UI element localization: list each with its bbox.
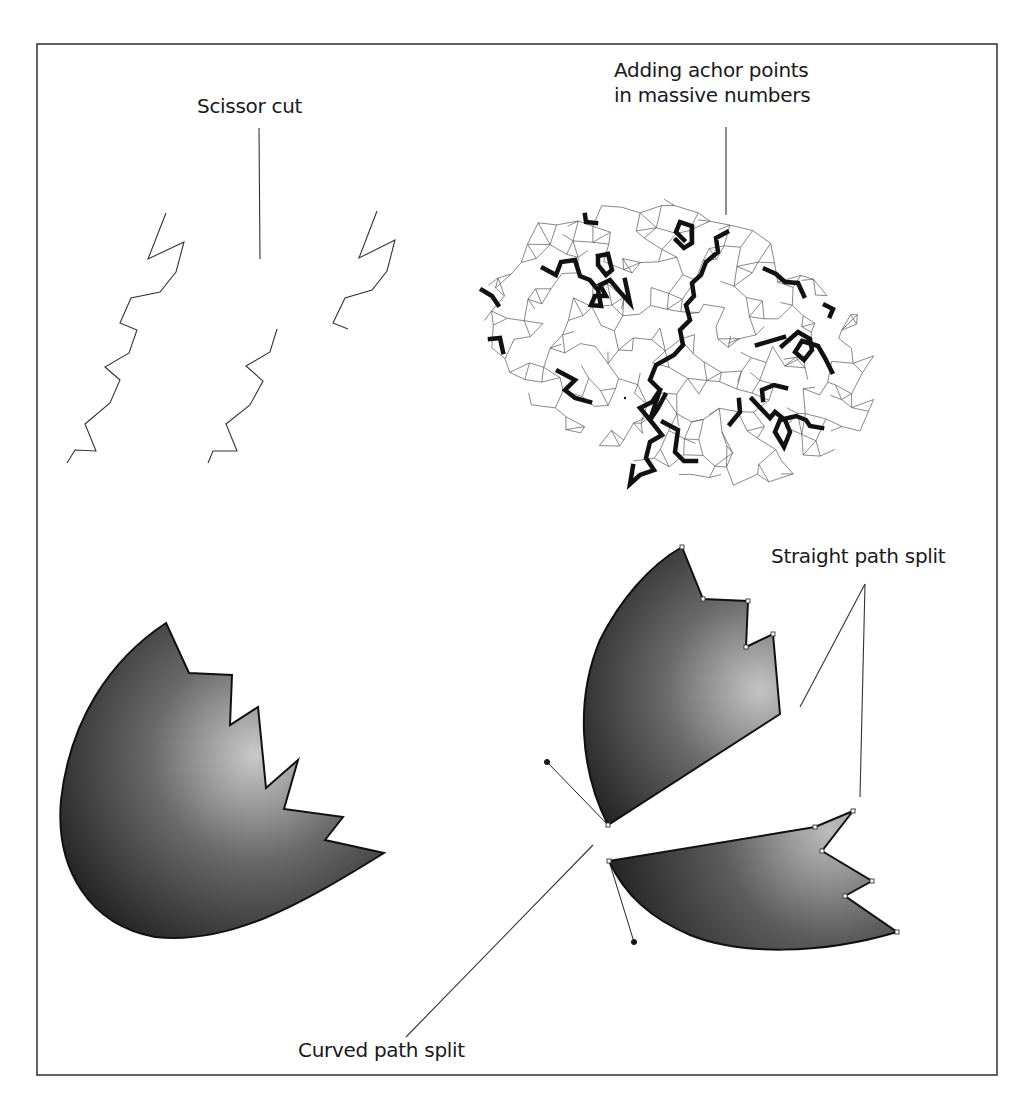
- handle-point-lower: [631, 939, 636, 944]
- upper-split-piece: [584, 547, 780, 825]
- anchor-label-line-1: Adding achor points: [614, 58, 810, 83]
- straight-split-leaders: [800, 584, 865, 797]
- scissor-leader-line: [259, 128, 260, 259]
- anchor-points-label: Adding achor points in massive numbers: [614, 58, 810, 108]
- scissor-piece-left: [67, 213, 184, 463]
- scissor-piece-middle: [208, 329, 277, 463]
- whole-egg-shape: [60, 623, 384, 938]
- scissor-cut-label: Scissor cut: [197, 94, 302, 119]
- handle-point-upper: [544, 759, 549, 764]
- scissor-piece-right: [333, 211, 395, 329]
- scissor-cut-panel: [67, 128, 395, 463]
- curved-split-leader: [406, 845, 593, 1037]
- split-shape-panel: [406, 545, 899, 1037]
- anchor-points-panel: [482, 127, 874, 485]
- mesh-center-dot: [624, 397, 626, 399]
- lower-split-piece: [609, 811, 897, 950]
- anchor-label-line-2: in massive numbers: [614, 83, 810, 108]
- straight-path-split-label: Straight path split: [771, 544, 945, 569]
- curved-path-split-label: Curved path split: [298, 1038, 465, 1063]
